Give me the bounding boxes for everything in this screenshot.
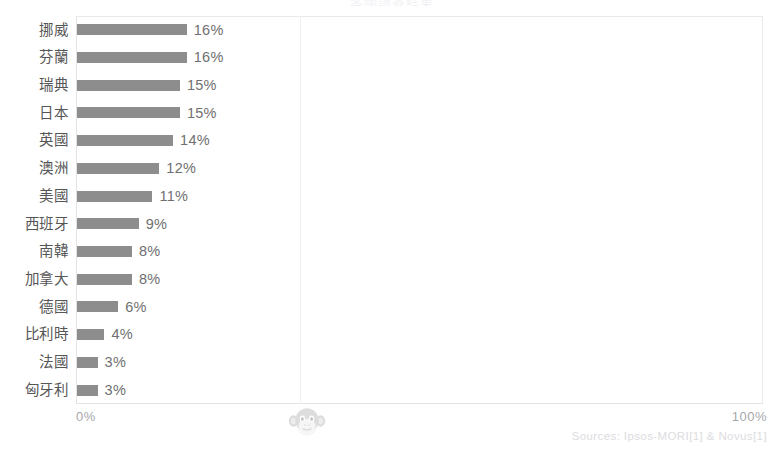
bar bbox=[77, 218, 139, 229]
bar-row: 加拿大8% bbox=[0, 265, 783, 293]
bar-value-label: 16% bbox=[194, 23, 224, 38]
bar-track: 16% bbox=[77, 16, 763, 44]
bar bbox=[77, 301, 118, 312]
bar-row: 南韓8% bbox=[0, 238, 783, 266]
bar-track: 9% bbox=[77, 210, 763, 238]
bar-value-label: 6% bbox=[125, 300, 147, 315]
bar-track: 15% bbox=[77, 99, 763, 127]
bar bbox=[77, 107, 180, 118]
bar-track: 3% bbox=[77, 376, 763, 404]
source-note: Sources: Ipsos-MORI[1] & Novus[1] bbox=[572, 430, 767, 442]
bar bbox=[77, 24, 187, 35]
bar-row: 英國14% bbox=[0, 127, 783, 155]
bar-category-label: 法國 bbox=[0, 355, 68, 370]
bar-category-label: 匈牙利 bbox=[0, 383, 68, 398]
bar-value-label: 9% bbox=[146, 217, 168, 232]
bar-category-label: 瑞典 bbox=[0, 78, 68, 93]
bar-row: 挪威16% bbox=[0, 16, 783, 44]
bar-category-label: 加拿大 bbox=[0, 272, 68, 287]
bar bbox=[77, 329, 104, 340]
bar-category-label: 德國 bbox=[0, 300, 68, 315]
bar bbox=[77, 357, 98, 368]
bar-value-label: 16% bbox=[194, 50, 224, 65]
bar-value-label: 8% bbox=[139, 244, 161, 259]
bar-rows: 挪威16%芬蘭16%瑞典15%日本15%英國14%澳洲12%美國11%西班牙9%… bbox=[0, 16, 783, 404]
bar bbox=[77, 52, 187, 63]
bar-category-label: 澳洲 bbox=[0, 161, 68, 176]
bar-row: 比利時4% bbox=[0, 321, 783, 349]
bar-row: 匈牙利3% bbox=[0, 376, 783, 404]
bar-row: 西班牙9% bbox=[0, 210, 783, 238]
bar-track: 6% bbox=[77, 293, 763, 321]
bar-value-label: 3% bbox=[105, 355, 127, 370]
bar-track: 14% bbox=[77, 127, 763, 155]
bar-value-label: 8% bbox=[139, 272, 161, 287]
bar-category-label: 英國 bbox=[0, 133, 68, 148]
bar-category-label: 比利時 bbox=[0, 327, 68, 342]
bar bbox=[77, 191, 152, 202]
bar-track: 3% bbox=[77, 349, 763, 377]
bar-category-label: 芬蘭 bbox=[0, 50, 68, 65]
bar bbox=[77, 80, 180, 91]
bar bbox=[77, 274, 132, 285]
bar-row: 澳洲12% bbox=[0, 155, 783, 183]
bar-row: 美國11% bbox=[0, 182, 783, 210]
x-axis-tick-min: 0% bbox=[76, 409, 96, 424]
bar-value-label: 15% bbox=[187, 106, 217, 121]
bar-row: 德國6% bbox=[0, 293, 783, 321]
bar-track: 15% bbox=[77, 71, 763, 99]
bar-track: 4% bbox=[77, 321, 763, 349]
bar-track: 8% bbox=[77, 265, 763, 293]
x-axis-tick-max: 100% bbox=[732, 409, 767, 424]
bar-category-label: 南韓 bbox=[0, 244, 68, 259]
bar-category-label: 挪威 bbox=[0, 23, 68, 38]
bar-track: 11% bbox=[77, 182, 763, 210]
bar-category-label: 西班牙 bbox=[0, 217, 68, 232]
bar-track: 16% bbox=[77, 44, 763, 72]
bar-value-label: 12% bbox=[166, 161, 196, 176]
bar-track: 8% bbox=[77, 238, 763, 266]
bar-category-label: 美國 bbox=[0, 189, 68, 204]
bar-value-label: 14% bbox=[180, 133, 210, 148]
bar-value-label: 11% bbox=[159, 189, 188, 204]
bar bbox=[77, 385, 98, 396]
bar bbox=[77, 135, 173, 146]
bar-category-label: 日本 bbox=[0, 106, 68, 121]
bar-value-label: 4% bbox=[111, 327, 133, 342]
bar-row: 芬蘭16% bbox=[0, 44, 783, 72]
bar bbox=[77, 246, 132, 257]
bar-chart: 各國調查結果 挪威16%芬蘭16%瑞典15%日本15%英國14%澳洲12%美國1… bbox=[0, 0, 783, 464]
bar-row: 瑞典15% bbox=[0, 71, 783, 99]
bar-value-label: 15% bbox=[187, 78, 217, 93]
chart-title: 各國調查結果 bbox=[0, 0, 783, 6]
bar bbox=[77, 163, 159, 174]
monkey-face-icon bbox=[288, 406, 326, 436]
bar-row: 法國3% bbox=[0, 349, 783, 377]
bar-value-label: 3% bbox=[105, 383, 127, 398]
bar-track: 12% bbox=[77, 155, 763, 183]
bar-row: 日本15% bbox=[0, 99, 783, 127]
